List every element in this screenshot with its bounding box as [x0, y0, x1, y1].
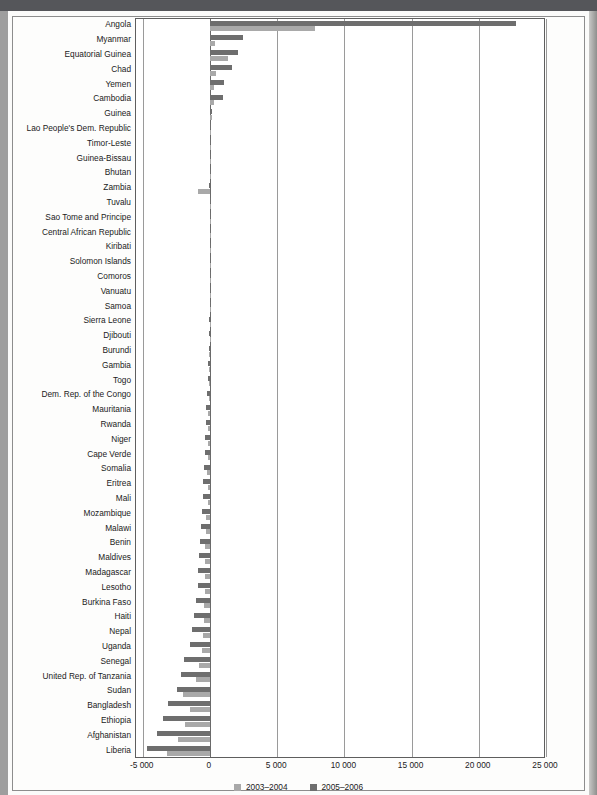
legend-item-2003-2004[interactable]: 2003–2004 [234, 782, 288, 792]
bar-row [136, 19, 544, 34]
bar-dark [198, 583, 210, 588]
category-label: Bhutan [0, 168, 131, 177]
bar-light [183, 692, 210, 697]
bar-light [210, 159, 211, 164]
category-label: United Rep. of Tanzania [0, 672, 131, 681]
x-axis-tick-label: 15 000 [398, 760, 423, 770]
bar-row [136, 626, 544, 641]
bar-row [136, 567, 544, 582]
bar-row [136, 345, 544, 360]
bar-light [210, 71, 216, 76]
category-label: Sao Tome and Principe [0, 213, 131, 222]
bar-dark [208, 376, 210, 381]
category-label: Mozambique [0, 509, 131, 518]
bar-light [205, 559, 209, 564]
bar-dark [200, 539, 210, 544]
bar-row [136, 197, 544, 212]
category-label: Yemen [0, 80, 131, 89]
bar-row [136, 389, 544, 404]
legend-swatch-icon-2005-2006 [310, 784, 317, 791]
bar-dark [209, 183, 210, 188]
bar-dark [206, 405, 210, 410]
category-label: Maldives [0, 553, 131, 562]
x-axis-tick-label: 5 000 [266, 760, 287, 770]
category-label: Madagascar [0, 568, 131, 577]
bar-row [136, 359, 544, 374]
legend-label-2003-2004: 2003–2004 [246, 782, 288, 792]
bar-light [208, 441, 210, 446]
x-axis-tick-label: 10 000 [331, 760, 356, 770]
bar-dark [210, 139, 211, 144]
page-top-band [0, 0, 597, 11]
bar-row [136, 226, 544, 241]
category-label: Guinea-Bissau [0, 154, 131, 163]
bar-dark [209, 346, 210, 351]
bar-light [209, 367, 210, 372]
bar-dark [207, 391, 210, 396]
bar-light [204, 618, 210, 623]
bar-dark [157, 731, 210, 736]
category-label: Chad [0, 65, 131, 74]
bar-dark [210, 80, 224, 85]
bar-row [136, 285, 544, 300]
bar-light [210, 204, 211, 209]
bar-light [210, 307, 211, 312]
bar-light [210, 41, 215, 46]
category-label: Gambia [0, 361, 131, 370]
bar-dark [210, 198, 211, 203]
bar-light [210, 322, 211, 327]
category-label: Uganda [0, 642, 131, 651]
category-label: Solomon Islands [0, 257, 131, 266]
chart-legend: 2003–2004 2005–2006 [0, 782, 597, 792]
bar-light [205, 544, 209, 549]
bar-light [210, 219, 211, 224]
bar-dark [203, 494, 210, 499]
bar-row [136, 123, 544, 138]
category-label: Vanuatu [0, 287, 131, 296]
bar-light [210, 263, 211, 268]
bar-row [136, 241, 544, 256]
category-label: Dem. Rep. of the Congo [0, 390, 131, 399]
bar-light [202, 648, 210, 653]
bar-row [136, 300, 544, 315]
bar-dark [147, 746, 210, 751]
bar-row [136, 552, 544, 567]
category-label: Zambia [0, 183, 131, 192]
category-label: Burkina Faso [0, 598, 131, 607]
bar-row [136, 715, 544, 730]
category-label: Malawi [0, 524, 131, 533]
bar-row [136, 448, 544, 463]
bar-row [136, 507, 544, 522]
bar-row [136, 611, 544, 626]
bar-light [210, 26, 315, 31]
category-label: Cape Verde [0, 450, 131, 459]
bar-dark [210, 35, 243, 40]
bar-light [199, 663, 210, 668]
gridline [546, 19, 547, 757]
category-label: Afghanistan [0, 731, 131, 740]
bar-light [209, 381, 210, 386]
category-label: Sierra Leone [0, 316, 131, 325]
bar-dark [210, 21, 516, 26]
bar-row [136, 596, 544, 611]
bar-dark [210, 65, 232, 70]
bar-dark [163, 716, 210, 721]
bar-light [178, 737, 210, 742]
bar-rows [136, 19, 544, 757]
bar-dark [168, 701, 210, 706]
category-label: Bangladesh [0, 701, 131, 710]
legend-item-2005-2006[interactable]: 2005–2006 [310, 782, 364, 792]
bar-dark [210, 302, 211, 307]
category-label: Sudan [0, 686, 131, 695]
category-label: Niger [0, 435, 131, 444]
bar-dark [202, 509, 210, 514]
category-label: Nepal [0, 627, 131, 636]
category-label: Djibouti [0, 331, 131, 340]
category-label: Senegal [0, 657, 131, 666]
bar-row [136, 34, 544, 49]
category-label: Central African Republic [0, 228, 131, 237]
bar-row [136, 152, 544, 167]
bar-dark [210, 228, 211, 233]
category-label: Benin [0, 538, 131, 547]
bar-row [136, 537, 544, 552]
